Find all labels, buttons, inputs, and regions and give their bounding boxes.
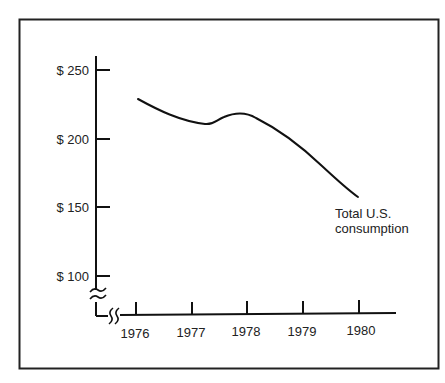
- y-tick-label: $ 250: [56, 63, 89, 78]
- y-axis-break-icon: [90, 288, 106, 299]
- y-axis: $ 250 $ 200 $ 150 $ 100: [56, 56, 110, 316]
- x-tick-label: 1978: [232, 324, 261, 339]
- y-tick-label: $ 100: [56, 269, 89, 284]
- x-tick-label: 1976: [121, 326, 150, 341]
- y-tick-label: $ 150: [56, 200, 89, 215]
- x-tick-label: 1980: [347, 323, 376, 338]
- x-axis: 1976 1977 1978 1979 1980: [96, 300, 396, 341]
- line-chart: $ 250 $ 200 $ 150 $ 100 1976 1977 1978 1…: [0, 0, 445, 383]
- series-annotation-line1: Total U.S.: [335, 206, 391, 221]
- x-tick-label: 1977: [177, 325, 206, 340]
- x-tick-label: 1979: [288, 324, 317, 339]
- series-annotation-line2: consumption: [335, 221, 409, 236]
- x-axis-break-icon: [109, 308, 119, 324]
- series-line-total-us-consumption: [138, 99, 358, 197]
- y-tick-label: $ 200: [56, 132, 89, 147]
